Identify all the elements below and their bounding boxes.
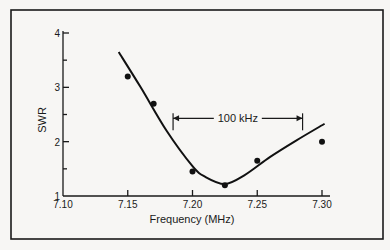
data-point: [190, 169, 196, 175]
arrow-left-icon: [173, 115, 179, 121]
data-point: [151, 101, 157, 107]
x-tick-label: 7.15: [118, 199, 138, 210]
x-axis-label: Frequency (MHz): [150, 213, 235, 225]
bandwidth-label: 100 kHz: [218, 112, 258, 124]
y-tick-label: 4: [54, 28, 60, 39]
x-tick-label: 7.10: [53, 199, 73, 210]
data-point: [319, 139, 325, 145]
data-point: [222, 182, 228, 188]
x-tick-labels: 7.107.157.207.257.30: [53, 199, 332, 210]
arrow-right-icon: [297, 115, 303, 121]
y-axis-label: SWR: [36, 107, 48, 133]
x-tick-label: 7.25: [248, 199, 268, 210]
swr-chart: 1234 7.107.157.207.257.30 SWR Frequency …: [0, 0, 390, 250]
y-tick-labels: 1234: [54, 28, 60, 202]
y-tick-label: 2: [54, 137, 60, 148]
data-points: [125, 73, 325, 188]
x-tick-label: 7.30: [312, 199, 332, 210]
data-point: [125, 73, 131, 79]
data-point: [254, 158, 260, 164]
y-tick-label: 3: [54, 82, 60, 93]
x-tick-label: 7.20: [183, 199, 203, 210]
